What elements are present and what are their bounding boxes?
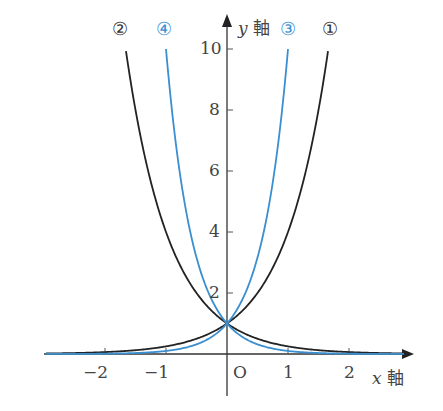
x-axis-title: x 軸 (372, 370, 404, 387)
y-tick-6: 6 (209, 162, 220, 179)
origin-label: O (233, 364, 247, 381)
x-tick-2: 2 (344, 364, 355, 381)
curve-4-line (166, 49, 404, 354)
curve-3-label: ③ (280, 20, 296, 38)
curve-4-label: ④ (156, 20, 172, 38)
x-tick-minus-2: −2 (83, 364, 108, 381)
x-tick-minus-1: −1 (144, 364, 169, 381)
y-tick-10: 10 (200, 40, 222, 57)
x-tick-1: 1 (283, 364, 294, 381)
y-ticks (227, 49, 233, 293)
curve-3-line (46, 49, 288, 354)
y-axis-kanji: 軸 (253, 18, 270, 38)
x-axis-kanji: 軸 (387, 368, 404, 388)
y-tick-2: 2 (209, 284, 220, 301)
y-tick-4: 4 (209, 223, 220, 240)
curve-1-line (46, 51, 328, 353)
y-axis-var: y (238, 18, 248, 38)
chart-plot (0, 0, 443, 411)
y-axis-title: y 軸 (238, 20, 270, 37)
y-axis-arrow-icon (222, 14, 232, 27)
curve-1-label: ① (322, 20, 338, 38)
curve-2-label: ② (112, 20, 128, 38)
x-axis-var: x (372, 368, 382, 388)
y-tick-8: 8 (209, 101, 220, 118)
curve-2-line (126, 51, 404, 353)
